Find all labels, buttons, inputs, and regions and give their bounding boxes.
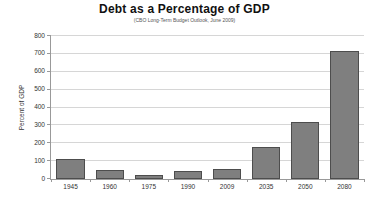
x-boundary-tick — [325, 179, 326, 182]
y-tick-label-800: 800 — [13, 33, 45, 40]
bar-2009 — [213, 169, 241, 179]
y-tick-label-600: 600 — [13, 69, 45, 76]
x-boundary-tick — [90, 179, 91, 182]
x-tick-label-2009: 2009 — [208, 184, 247, 191]
x-boundary-tick — [51, 179, 52, 182]
x-tick-label-2080: 2080 — [325, 184, 364, 191]
gridline-500 — [51, 89, 364, 90]
y-tick-label-0: 0 — [13, 176, 45, 183]
x-boundary-tick — [247, 179, 248, 182]
y-tick-label-700: 700 — [13, 51, 45, 58]
bar-1990 — [174, 171, 202, 179]
y-tick-500 — [47, 89, 51, 90]
y-tick-400 — [47, 107, 51, 108]
x-tick-label-1960: 1960 — [90, 184, 129, 191]
x-boundary-tick — [364, 179, 365, 182]
chart-container: Debt as a Percentage of GDP (CBO Long-Te… — [0, 0, 369, 210]
x-tick-label-1945: 1945 — [51, 184, 90, 191]
y-tick-800 — [47, 35, 51, 36]
x-tick-label-2035: 2035 — [247, 184, 286, 191]
y-tick-label-100: 100 — [13, 158, 45, 165]
bar-2035 — [252, 147, 280, 179]
bar-1975 — [135, 175, 163, 179]
y-tick-300 — [47, 124, 51, 125]
bar-2080 — [330, 51, 358, 179]
x-boundary-tick — [286, 179, 287, 182]
x-tick-label-1990: 1990 — [168, 184, 207, 191]
gridline-800 — [51, 35, 364, 36]
y-tick-label-500: 500 — [13, 86, 45, 93]
y-tick-700 — [47, 53, 51, 54]
gridline-600 — [51, 71, 364, 72]
y-tick-label-400: 400 — [13, 104, 45, 111]
y-tick-600 — [47, 71, 51, 72]
x-boundary-tick — [208, 179, 209, 182]
bar-1960 — [96, 170, 124, 179]
plot-area: 0100200300400500600700800194519601975199… — [50, 36, 364, 180]
chart-title: Debt as a Percentage of GDP — [0, 2, 369, 16]
x-boundary-tick — [168, 179, 169, 182]
y-tick-100 — [47, 160, 51, 161]
gridline-400 — [51, 107, 364, 108]
y-tick-label-300: 300 — [13, 122, 45, 129]
chart-subtitle: (CBO Long-Term Budget Outlook, June 2009… — [0, 17, 369, 23]
y-tick-200 — [47, 142, 51, 143]
y-tick-label-200: 200 — [13, 140, 45, 147]
x-tick-label-1975: 1975 — [129, 184, 168, 191]
gridline-700 — [51, 53, 364, 54]
x-tick-label-2050: 2050 — [286, 184, 325, 191]
x-boundary-tick — [129, 179, 130, 182]
bar-1945 — [56, 159, 84, 179]
bar-2050 — [291, 122, 319, 179]
